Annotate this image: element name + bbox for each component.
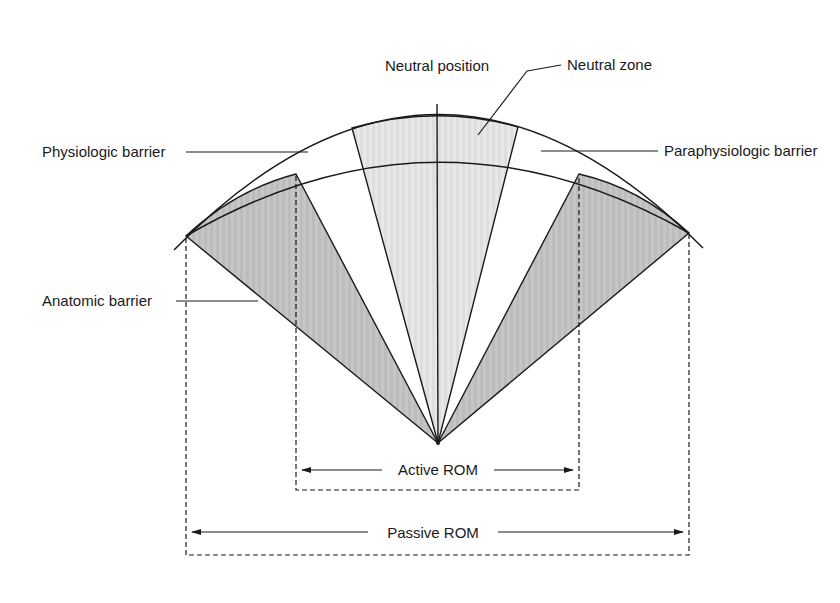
anatomic-barrier-label: Anatomic barrier	[42, 292, 152, 309]
physiologic-barrier-label: Physiologic barrier	[42, 143, 165, 160]
active-rom-label: Active ROM	[398, 461, 478, 478]
neutral-position-line	[437, 104, 438, 443]
apex-point	[436, 441, 440, 445]
neutral-zone-leader-h	[527, 65, 561, 71]
passive-rom-label: Passive ROM	[387, 524, 479, 541]
neutral-zone-label: Neutral zone	[567, 56, 652, 73]
paraphysiologic-barrier-label: Paraphysiologic barrier	[664, 142, 817, 159]
range-of-motion-diagram: Neutral position Neutral zone Physiologi…	[0, 0, 840, 603]
neutral-position-label: Neutral position	[385, 57, 489, 74]
